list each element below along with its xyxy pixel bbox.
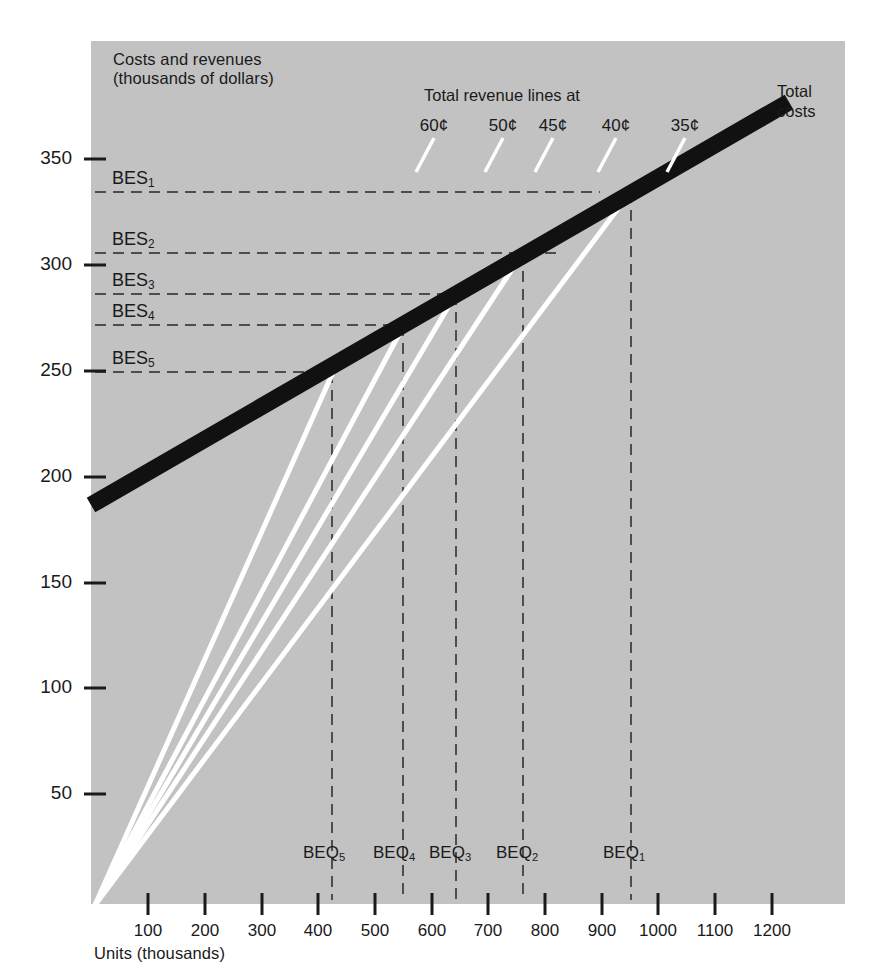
y-tick-label-150: 150	[12, 571, 72, 593]
beq-label-5: BEQ5	[303, 843, 345, 864]
beq-label-4-text: BEQ	[373, 843, 409, 862]
beq-label-4: BEQ4	[373, 843, 415, 864]
y-tick-label-250: 250	[12, 359, 72, 381]
bes-label-2: BES2	[112, 229, 155, 251]
revenue-line-35c	[95, 190, 632, 905]
price-label-40c: 40¢	[593, 116, 639, 136]
bes-label-1-sub: 1	[148, 176, 155, 190]
y-tick-label-100: 100	[12, 676, 72, 698]
bes-guide-lines	[95, 192, 600, 372]
x-axis-title: Units (thousands)	[94, 944, 225, 963]
bes-label-3-text: BES	[112, 270, 148, 290]
price-label-50c: 50¢	[480, 116, 526, 136]
bes-label-1-text: BES	[112, 168, 148, 188]
x-tick-label-1000: 1000	[628, 921, 688, 941]
x-tick-label-1100: 1100	[685, 921, 745, 941]
bes-label-5: BES5	[112, 348, 155, 370]
total-costs-label-line1: Total	[777, 82, 816, 102]
total-revenue-lines	[95, 190, 632, 905]
y-tick-label-350: 350	[12, 147, 72, 169]
x-tick-label-200: 200	[175, 921, 235, 941]
total-costs-label: Total costs	[777, 82, 816, 122]
bes-label-5-sub: 5	[148, 356, 155, 370]
bes-label-4-sub: 4	[148, 309, 155, 323]
total-costs-label-line2: costs	[777, 102, 816, 122]
price-label-leader-lines	[416, 138, 685, 172]
leader-line-60c	[416, 138, 434, 172]
y-axis-ticks	[84, 159, 106, 794]
leader-line-50c	[485, 138, 503, 172]
y-tick-label-50: 50	[12, 782, 72, 804]
x-axis-ticks	[148, 893, 772, 915]
bes-label-4: BES4	[112, 301, 155, 323]
beq-label-3: BEQ3	[429, 843, 471, 864]
beq-label-2-sub: 2	[532, 851, 538, 863]
y-axis-title-line1: Costs and revenues	[113, 50, 274, 69]
beq-label-2-text: BEQ	[496, 843, 532, 862]
bes-label-5-text: BES	[112, 348, 148, 368]
revenue-line-40c	[95, 251, 524, 905]
x-tick-label-800: 800	[515, 921, 575, 941]
x-tick-label-600: 600	[402, 921, 462, 941]
beq-label-1-sub: 1	[639, 851, 645, 863]
revenue-lines-title: Total revenue lines at	[424, 86, 580, 105]
y-axis-title: Costs and revenues (thousands of dollars…	[113, 50, 274, 89]
leader-line-45c	[535, 138, 553, 172]
price-label-35c: 35¢	[662, 116, 708, 136]
x-tick-label-300: 300	[232, 921, 292, 941]
break-even-chart: Costs and revenues (thousands of dollars…	[0, 0, 876, 968]
beq-label-3-sub: 3	[465, 851, 471, 863]
beq-guide-lines	[332, 192, 631, 900]
bes-label-4-text: BES	[112, 301, 148, 321]
leader-line-40c	[598, 138, 616, 172]
bes-label-1: BES1	[112, 168, 155, 190]
y-tick-label-200: 200	[12, 465, 72, 487]
beq-label-2: BEQ2	[496, 843, 538, 864]
beq-label-3-text: BEQ	[429, 843, 465, 862]
bes-label-3: BES3	[112, 270, 155, 292]
x-tick-label-400: 400	[288, 921, 348, 941]
price-label-45c: 45¢	[530, 116, 576, 136]
x-tick-label-700: 700	[458, 921, 518, 941]
beq-label-5-text: BEQ	[303, 843, 339, 862]
y-tick-label-300: 300	[12, 253, 72, 275]
bes-label-2-sub: 2	[148, 237, 155, 251]
bes-label-3-sub: 3	[148, 278, 155, 292]
y-axis-title-line2: (thousands of dollars)	[113, 69, 274, 88]
price-label-60c: 60¢	[411, 116, 457, 136]
beq-label-5-sub: 5	[339, 851, 345, 863]
x-tick-label-100: 100	[118, 921, 178, 941]
x-tick-label-900: 900	[572, 921, 632, 941]
bes-label-2-text: BES	[112, 229, 148, 249]
beq-label-4-sub: 4	[409, 851, 415, 863]
plot-svg	[0, 0, 876, 968]
beq-label-1-text: BEQ	[603, 843, 639, 862]
beq-label-1: BEQ1	[603, 843, 645, 864]
x-tick-label-1200: 1200	[742, 921, 802, 941]
x-tick-label-500: 500	[345, 921, 405, 941]
